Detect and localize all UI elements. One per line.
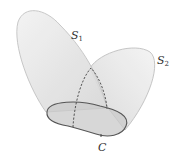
surface-s1: [17, 11, 107, 112]
label-s2: S2: [157, 54, 169, 68]
label-s1: S1: [71, 29, 83, 43]
surfaces-diagram: S1 S2 C: [0, 0, 178, 166]
label-c: C: [98, 141, 107, 154]
